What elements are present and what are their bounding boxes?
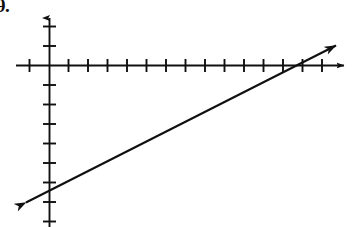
graph-figure: 9. (0, 0, 355, 227)
y-axis (43, 18, 56, 227)
linear-function-line (26, 46, 336, 203)
coordinate-plane-graphic (0, 0, 355, 227)
problem-number-label: 9. (0, 0, 9, 15)
plotted-line-series (26, 46, 336, 203)
